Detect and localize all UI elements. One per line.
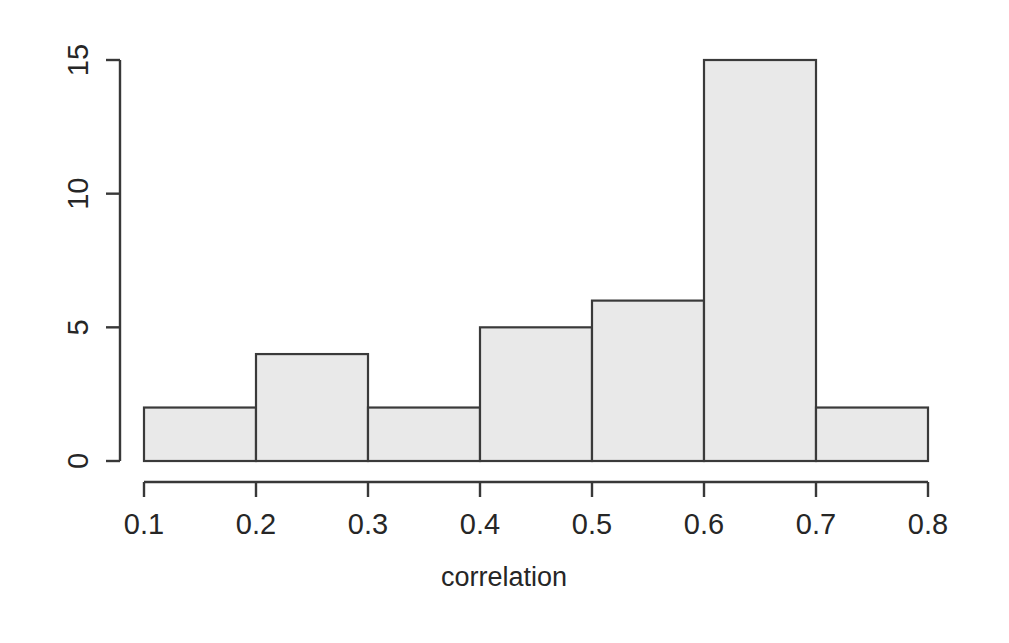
- y-axis-tick-label: 10: [62, 178, 94, 210]
- x-axis-tick-label: 0.1: [124, 508, 164, 540]
- histogram-bar: [368, 408, 480, 461]
- histogram-bar: [256, 354, 368, 461]
- x-axis-title: correlation: [441, 562, 567, 592]
- x-axis-tick-label: 0.5: [572, 508, 612, 540]
- x-axis-tick-label: 0.3: [348, 508, 388, 540]
- histogram-bar: [144, 408, 256, 461]
- plot-background: [0, 0, 1009, 643]
- x-axis-tick-label: 0.7: [796, 508, 836, 540]
- histogram-bar: [480, 327, 592, 461]
- x-axis-tick-label: 0.2: [236, 508, 276, 540]
- histogram-bar: [816, 408, 928, 461]
- x-axis-tick-label: 0.8: [908, 508, 948, 540]
- x-axis-tick-label: 0.4: [460, 508, 500, 540]
- histogram-bar: [704, 60, 816, 461]
- y-axis-tick-label: 0: [62, 453, 94, 469]
- histogram-plot: 051015 0.10.20.30.40.50.60.70.8 correlat…: [0, 0, 1009, 643]
- x-axis-tick-label: 0.6: [684, 508, 724, 540]
- histogram-bar: [592, 301, 704, 461]
- chart-canvas: 051015 0.10.20.30.40.50.60.70.8 correlat…: [0, 0, 1009, 643]
- y-axis-tick-label: 5: [62, 319, 94, 335]
- y-axis-tick-label: 15: [62, 44, 94, 76]
